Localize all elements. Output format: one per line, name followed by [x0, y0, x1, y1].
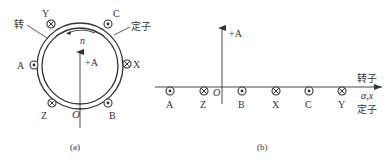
- conductor-x: X: [272, 87, 280, 110]
- stator-label: 定子: [357, 103, 377, 115]
- svg-text:Y: Y: [338, 99, 345, 110]
- conductor-a: A: [166, 87, 174, 110]
- rotor-label: 转子: [357, 72, 377, 84]
- rotation-label: n: [80, 35, 85, 46]
- coord-label: α,x: [361, 90, 374, 101]
- stator-label: 定子: [131, 20, 151, 32]
- rotor-leader-line: [27, 25, 47, 38]
- conductor-z: Z: [200, 87, 208, 110]
- conductor-z: Z: [41, 99, 56, 121]
- conductor-c: C: [104, 8, 120, 28]
- caption-b: (b): [257, 142, 268, 152]
- svg-text:B: B: [109, 110, 116, 121]
- svg-text:A: A: [166, 99, 174, 110]
- a-axis-label: +A: [229, 28, 243, 39]
- stator-leader-line: [114, 27, 130, 35]
- conductor-c: C: [305, 87, 313, 110]
- conductor-b: B: [238, 87, 246, 110]
- conductor-y: Y: [42, 8, 55, 28]
- svg-text:X: X: [272, 99, 280, 110]
- rotation-arrow-icon: [68, 30, 95, 33]
- rotor-label: 转: [14, 18, 24, 30]
- conductor-x: X: [123, 59, 141, 70]
- svg-text:Z: Z: [41, 110, 47, 121]
- svg-text:Y: Y: [42, 8, 49, 19]
- svg-text:B: B: [238, 99, 245, 110]
- conductor-y: Y: [338, 87, 346, 110]
- diagram-canvas: n 转 定子 +A O Y C A: [0, 0, 391, 165]
- conductor-b: B: [104, 99, 116, 121]
- a-axis-label: +A: [85, 57, 99, 68]
- caption-a: (a): [70, 142, 80, 152]
- conductor-a: A: [17, 60, 38, 71]
- svg-text:C: C: [305, 99, 312, 110]
- svg-text:X: X: [133, 59, 141, 70]
- panel-b: +A O 转子 α,x 定子 A Z B X: [155, 28, 382, 152]
- svg-text:A: A: [17, 60, 25, 71]
- panel-a: n 转 定子 +A O Y C A: [14, 8, 151, 152]
- origin-label: O: [213, 87, 220, 98]
- svg-text:Z: Z: [200, 99, 206, 110]
- origin-label: O: [72, 108, 80, 120]
- svg-text:C: C: [113, 8, 120, 19]
